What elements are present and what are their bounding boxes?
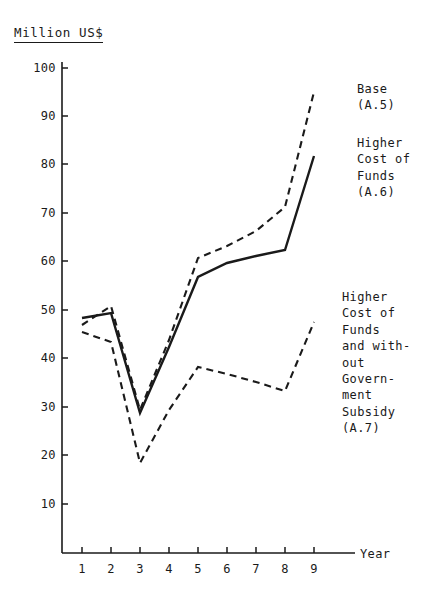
y-tick-label: 20	[22, 449, 56, 461]
x-tick-label: 7	[248, 563, 264, 575]
series-line-a7	[82, 322, 314, 463]
x-tick-label: 8	[277, 563, 293, 575]
y-tick-label: 10	[22, 498, 56, 510]
x-tick-label: 3	[132, 563, 148, 575]
x-axis-label: Year	[360, 547, 391, 561]
y-tick-label: 90	[22, 110, 56, 122]
chart-figure: Million US$	[0, 0, 432, 605]
y-tick-label: 100	[22, 62, 56, 74]
y-tick-label: 60	[22, 255, 56, 267]
x-tick-label: 1	[74, 563, 90, 575]
y-tick-label: 40	[22, 352, 56, 364]
series-annotation-a5: Base (A.5)	[357, 81, 395, 114]
series-annotation-a6: Higher Cost of Funds (A.6)	[357, 135, 410, 201]
x-tick-label: 6	[219, 563, 235, 575]
y-axis-ticks	[62, 68, 68, 504]
series-annotation-a7: Higher Cost of Funds and with- out Gover…	[342, 289, 411, 437]
x-tick-label: 9	[306, 563, 322, 575]
x-tick-label: 2	[103, 563, 119, 575]
y-tick-label: 30	[22, 401, 56, 413]
x-tick-label: 4	[161, 563, 177, 575]
series-line-a6	[82, 156, 314, 413]
y-tick-label: 70	[22, 207, 56, 219]
y-tick-label: 50	[22, 304, 56, 316]
x-axis-ticks	[82, 547, 314, 553]
x-tick-label: 5	[190, 563, 206, 575]
y-tick-label: 80	[22, 158, 56, 170]
